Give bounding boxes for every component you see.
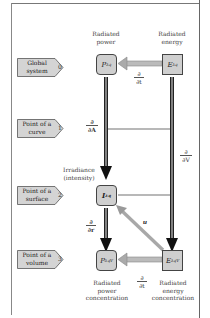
subscript: λqV (105, 258, 113, 263)
subscript: λq (105, 193, 111, 198)
time-derivative-arrow-top (118, 57, 127, 70)
subscript: λqV (171, 258, 179, 263)
operator-time-bottom: ∂ ∂t (137, 274, 147, 289)
level-label: Point of a volume (18, 251, 56, 267)
box-radiated-power-concentration: PλqV (96, 250, 117, 271)
time-derivative-arrow-bottom (118, 253, 127, 266)
caption-irradiance: Irradiance (intensity) (58, 166, 100, 181)
arrowhead-down-irradiance (100, 166, 112, 180)
box-radiated-power: Pλq (96, 54, 117, 75)
caption-radiated-energy-concentration: Radiated energy concentration (150, 279, 196, 302)
caption-radiated-power-concentration: Radiated power concentration (84, 279, 130, 302)
operator-area: ∂ ∂A (86, 118, 98, 133)
caption-radiated-power: Radiated power (90, 30, 122, 45)
box-irradiance: Iλq (96, 185, 117, 206)
level-tag-point-of-curve: Point of a curve 1 (17, 119, 64, 138)
level-label: Point of a curve (18, 120, 56, 136)
level-tag-point-of-volume: Point of a volume 3 (17, 250, 64, 269)
subscript: λq (173, 62, 178, 67)
level-number: 1 (58, 124, 62, 131)
level-tag-global-system: Global system 0 (17, 58, 64, 77)
level-number: 2 (58, 191, 62, 198)
caption-radiated-energy: Radiated energy (156, 30, 188, 45)
level-tag-point-of-surface: Point of a surface 2 (17, 186, 64, 205)
operator-volume: ∂ ∂V (180, 148, 192, 163)
operator-velocity-label: u (142, 218, 148, 225)
subscript: λq (106, 62, 111, 67)
velocity-arrow (122, 211, 163, 250)
operator-time-top: ∂ ∂t (134, 70, 144, 85)
operator-radius: ∂ ∂r (86, 218, 96, 233)
box-radiated-energy-concentration: EλqV (162, 250, 183, 271)
box-radiated-energy: Eλq (162, 54, 183, 75)
level-number: 0 (58, 63, 62, 70)
level-label: Point of a surface (18, 187, 56, 203)
level-label: Global system (18, 59, 56, 75)
level-number: 3 (58, 255, 62, 262)
